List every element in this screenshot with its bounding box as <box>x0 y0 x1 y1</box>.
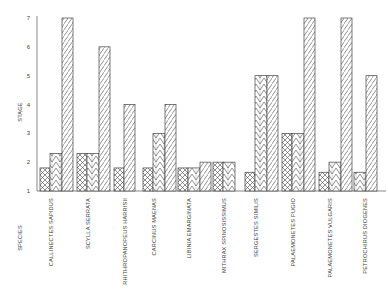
bar-group <box>77 47 110 191</box>
bar-chevron <box>329 162 341 191</box>
bar-diagonal <box>200 162 211 191</box>
bar-diagonal <box>124 105 135 192</box>
y-tick-label: 6 <box>27 44 31 50</box>
bar-diagonal <box>304 18 315 191</box>
category-label: RHITHROPANOPEUS HARRISII <box>122 198 128 285</box>
category-label: PALAEMONETES PUGIO <box>290 198 296 267</box>
bar-chevron <box>87 154 99 191</box>
category-label: MITHRAX SPINOSISSIMUS <box>221 198 227 273</box>
category-label: CARCINUS MAENAS <box>151 198 157 255</box>
bar-chevron <box>255 76 267 191</box>
bar-diagonal <box>267 76 278 191</box>
bar-group <box>354 76 377 191</box>
category-label: CALLINECTES SAPIDUS <box>48 198 54 266</box>
y-tick-label: 5 <box>27 73 31 79</box>
bar-crosshatch <box>319 172 329 191</box>
bar-group <box>282 18 315 191</box>
bar-chevron <box>153 133 165 191</box>
bar-group <box>114 105 135 192</box>
category-label: PALAEMONETES VULGARIS <box>327 198 333 277</box>
bar-group <box>245 76 278 191</box>
bar-crosshatch <box>77 154 87 191</box>
y-axis-label: STAGE <box>17 102 23 122</box>
category-labels: CALLINECTES SAPIDUSSCYLLA SERRATARHITHRO… <box>48 198 368 285</box>
y-tick-label: 7 <box>27 15 31 21</box>
bar-crosshatch <box>245 172 255 191</box>
bar-crosshatch <box>114 168 124 191</box>
bar-group <box>213 162 235 191</box>
bar-chevron <box>188 168 200 191</box>
bar-group <box>40 18 73 191</box>
x-axis-label: SPECIES <box>17 225 23 251</box>
bar-crosshatch <box>40 168 50 191</box>
bar-diagonal <box>366 76 377 191</box>
bar-group <box>319 18 352 191</box>
bars <box>40 18 377 191</box>
y-tick-label: 2 <box>27 159 31 165</box>
y-tick-label: 3 <box>27 130 31 136</box>
bar-diagonal <box>99 47 110 191</box>
bar-group <box>178 162 211 191</box>
bar-chevron <box>223 162 235 191</box>
bar-chevron <box>292 133 304 191</box>
bar-crosshatch <box>213 162 223 191</box>
bar-group <box>143 105 176 192</box>
y-tick-label: 4 <box>27 102 31 108</box>
category-label: SERGESTES SIMILIS <box>253 198 259 257</box>
bar-crosshatch <box>282 133 292 191</box>
bar-chevron <box>50 154 62 191</box>
y-tick-label: 1 <box>27 188 31 194</box>
bar-diagonal <box>165 105 176 192</box>
category-label: LIBINIA EMARGINATA <box>186 198 192 258</box>
bar-chevron <box>354 172 366 191</box>
bar-crosshatch <box>178 168 188 191</box>
bar-diagonal <box>341 18 352 191</box>
bar-chart: 1234567 CALLINECTES SAPIDUSSCYLLA SERRAT… <box>0 0 388 292</box>
bar-crosshatch <box>143 168 153 191</box>
bar-diagonal <box>62 18 73 191</box>
category-label: SCYLLA SERRATA <box>85 198 91 249</box>
category-label: PETROCHIRUS DIOGENES <box>362 198 368 274</box>
